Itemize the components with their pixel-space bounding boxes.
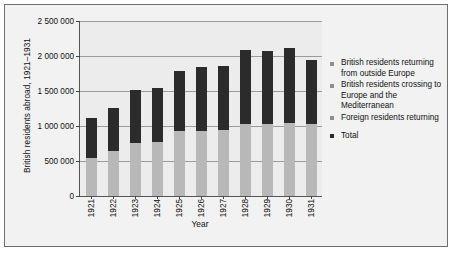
x-axis-tick-label: 1924 (153, 199, 162, 217)
bar-group[interactable]: 1921 (86, 21, 97, 196)
bar-group[interactable]: 1922 (108, 21, 119, 196)
bar-segment-total[interactable] (240, 50, 251, 124)
legend-item[interactable]: British residents returning from outside… (330, 58, 452, 79)
y-axis-tick-label: 2 500 000 (38, 17, 74, 26)
x-axis-tick-label: 1931 (307, 199, 316, 217)
bar-segment-total[interactable] (86, 118, 97, 158)
y-axis-tick-mark (76, 126, 80, 127)
y-axis-title: British residents abroad, 1921–1931 (23, 21, 32, 191)
x-axis-tick-label: 1921 (87, 199, 96, 217)
legend-item[interactable]: Total (330, 131, 452, 142)
plot-area: 0500 0001 000 0001 500 0002 000 0002 500… (79, 21, 322, 197)
legend-item-label: British residents crossing to Europe and… (341, 80, 441, 110)
bar-segment-foreign-residents-returning[interactable] (108, 151, 119, 196)
bar-segment-foreign-residents-returning[interactable] (196, 131, 207, 196)
chart-legend: British residents returning from outside… (330, 58, 452, 142)
bar-segment-total[interactable] (218, 66, 229, 130)
bar-segment-total[interactable] (196, 67, 207, 131)
bar-segment-total[interactable] (174, 71, 185, 131)
legend-item[interactable]: British residents crossing to Europe and… (330, 80, 452, 112)
bar-segment-foreign-residents-returning[interactable] (86, 158, 97, 197)
legend-swatch-icon (330, 62, 334, 66)
bar-group[interactable]: 1923 (130, 21, 141, 196)
bar-segment-foreign-residents-returning[interactable] (240, 124, 251, 196)
y-axis-tick-label: 1 000 000 (38, 122, 74, 131)
legend-item-label: Foreign residents returning (341, 113, 439, 122)
bar-segment-foreign-residents-returning[interactable] (174, 131, 185, 196)
y-axis-tick-mark (76, 56, 80, 57)
x-axis-tick-label: 1922 (109, 199, 118, 217)
bar-segment-foreign-residents-returning[interactable] (306, 124, 317, 196)
legend-swatch-icon (330, 84, 334, 88)
x-axis-tick-label: 1925 (175, 199, 184, 217)
chart-frame: British residents abroad, 1921–1931 0500… (4, 4, 448, 247)
legend-swatch-icon (330, 116, 334, 120)
bar-group[interactable]: 1924 (152, 21, 163, 196)
y-axis-tick-label: 2 000 000 (38, 52, 74, 61)
bar-group[interactable]: 1925 (174, 21, 185, 196)
y-axis-tick-label: 0 (69, 192, 74, 201)
bar-group[interactable]: 1929 (262, 21, 273, 196)
bar-segment-foreign-residents-returning[interactable] (284, 123, 295, 196)
bar-group[interactable]: 1928 (240, 21, 251, 196)
bar-group[interactable]: 1926 (196, 21, 207, 196)
y-axis-tick-mark (76, 21, 80, 22)
x-axis-tick-label: 1929 (263, 199, 272, 217)
bar-group[interactable]: 1931 (306, 21, 317, 196)
x-axis-title: Year (79, 219, 321, 229)
bar-segment-foreign-residents-returning[interactable] (262, 124, 273, 196)
bar-segment-total[interactable] (130, 90, 141, 143)
legend-swatch-icon (330, 134, 334, 138)
y-axis-tick-label: 500 000 (44, 157, 74, 166)
bar-segment-total[interactable] (108, 108, 119, 151)
legend-item[interactable]: Foreign residents returning (330, 113, 452, 124)
legend-item-label: Total (341, 131, 358, 140)
y-axis-tick-mark (76, 161, 80, 162)
bar-segment-total[interactable] (152, 88, 163, 143)
bar-segment-foreign-residents-returning[interactable] (152, 142, 163, 196)
y-axis-tick-mark (76, 196, 80, 197)
bar-segment-total[interactable] (284, 48, 295, 124)
x-axis-tick-label: 1928 (241, 199, 250, 217)
bar-group[interactable]: 1927 (218, 21, 229, 196)
y-axis-tick-label: 1 500 000 (38, 87, 74, 96)
x-axis-tick-label: 1930 (285, 199, 294, 217)
bar-segment-foreign-residents-returning[interactable] (130, 143, 141, 196)
legend-item-label: British residents returning from outside… (341, 58, 434, 78)
x-axis-tick-label: 1926 (197, 199, 206, 217)
bar-segment-total[interactable] (262, 51, 273, 124)
x-axis-tick-label: 1923 (131, 199, 140, 217)
bar-segment-foreign-residents-returning[interactable] (218, 130, 229, 197)
bar-group[interactable]: 1930 (284, 21, 295, 196)
x-axis-tick-label: 1927 (219, 199, 228, 217)
y-axis-tick-mark (76, 91, 80, 92)
bar-segment-total[interactable] (306, 60, 317, 124)
